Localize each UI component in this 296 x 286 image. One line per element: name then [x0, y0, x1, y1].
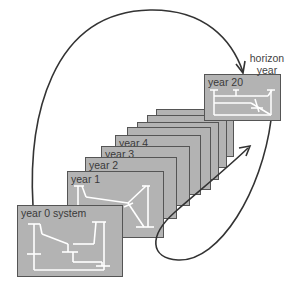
- network-year-20: [205, 75, 282, 122]
- frame-year-20-horizon: year 20: [204, 74, 281, 121]
- annotation-line-1: horizon: [244, 52, 290, 64]
- annotation-line-2: year: [244, 64, 290, 76]
- network-year-0: [18, 206, 124, 278]
- frame-year-0-system: year 0 system: [17, 205, 123, 277]
- horizon-year-annotation: horizon year: [244, 52, 290, 76]
- diagram-canvas: year 4 year 3 year 2 year 1 year 0 sy: [0, 0, 296, 286]
